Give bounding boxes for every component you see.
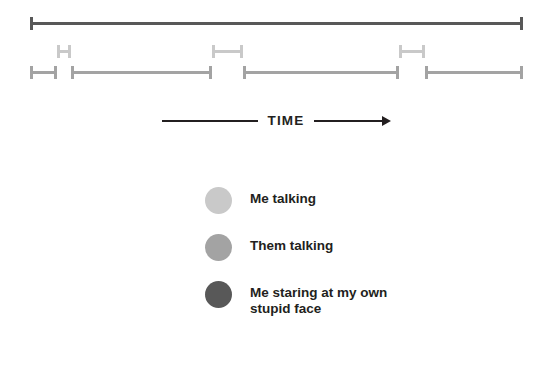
legend-item-label: Me staring at my own stupid face xyxy=(250,280,387,317)
time-axis: TIME xyxy=(0,108,553,134)
legend-dot-me-staring xyxy=(205,281,232,308)
me-talking-segment-2 xyxy=(212,50,243,53)
them-talking-segment-2-rule xyxy=(71,71,212,74)
them-talking-segment-3-cap-left xyxy=(243,66,246,79)
them-talking-segment-4-cap-left xyxy=(425,66,428,79)
me-talking-segment-3-cap-right xyxy=(422,45,425,58)
them-talking-segment-1-rule xyxy=(30,71,57,74)
them-talking-segment-2-cap-left xyxy=(71,66,74,79)
me-talking-segment-1-cap-right xyxy=(68,45,71,58)
me-talking-segment-2-rule xyxy=(212,50,243,53)
legend-item: Me staring at my own stupid face xyxy=(205,280,505,317)
them-talking-segment-1-cap-right xyxy=(54,66,57,79)
them-talking-segment-2 xyxy=(71,71,212,74)
staring-segment-1 xyxy=(30,22,523,25)
me-talking-segment-1-cap-left xyxy=(57,45,60,58)
them-talking-segment-3-rule xyxy=(243,71,399,74)
me-talking-segment-1 xyxy=(57,50,71,53)
them-talking-segment-3-cap-right xyxy=(396,66,399,79)
them-talking-segment-3 xyxy=(243,71,399,74)
legend-item-label: Me talking xyxy=(250,186,316,207)
me-talking-segment-3-cap-left xyxy=(399,45,402,58)
them-talking-segment-1-cap-left xyxy=(30,66,33,79)
legend: Me talkingThem talkingMe staring at my o… xyxy=(205,186,505,317)
me-talking-segment-2-cap-right xyxy=(240,45,243,58)
them-talking-segment-4-cap-right xyxy=(520,66,523,79)
conversation-timeline xyxy=(0,0,553,95)
staring-segment-1-cap-left xyxy=(30,17,33,30)
time-axis-label: TIME xyxy=(267,114,304,128)
arrow-right-icon xyxy=(382,116,391,126)
legend-dot-me-talking xyxy=(205,187,232,214)
time-axis-line-left xyxy=(162,120,258,122)
legend-dot-them-talking xyxy=(205,234,232,261)
them-talking-segment-2-cap-right xyxy=(209,66,212,79)
legend-item: Them talking xyxy=(205,233,505,280)
legend-item-label: Them talking xyxy=(250,233,333,254)
staring-segment-1-rule xyxy=(30,22,523,25)
time-axis-inner: TIME xyxy=(162,114,390,128)
them-talking-segment-4-rule xyxy=(425,71,523,74)
them-talking-segment-1 xyxy=(30,71,57,74)
me-talking-segment-3 xyxy=(399,50,425,53)
me-talking-segment-2-cap-left xyxy=(212,45,215,58)
legend-item: Me talking xyxy=(205,186,505,233)
staring-segment-1-cap-right xyxy=(520,17,523,30)
them-talking-segment-4 xyxy=(425,71,523,74)
time-axis-line-right xyxy=(314,120,382,122)
